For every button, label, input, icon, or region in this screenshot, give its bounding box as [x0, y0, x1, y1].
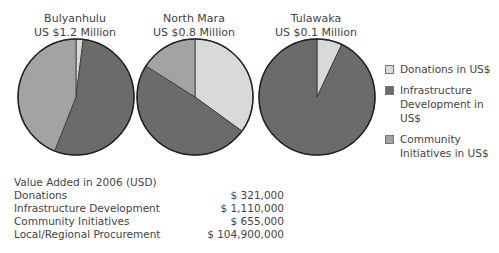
row-value: $ 321,000 — [231, 189, 284, 202]
table-row: Community Initiatives $ 655,000 — [14, 215, 284, 228]
row-label: Infrastructure Development — [14, 202, 160, 215]
row-value: $ 655,000 — [231, 215, 284, 228]
table-row: Local/Regional Procurement $ 104,900,000 — [14, 228, 284, 241]
legend-swatch — [385, 65, 394, 74]
table-row: Infrastructure Development $ 1,110,000 — [14, 202, 284, 215]
legend-item-community: Community Initiatives in US$ — [385, 132, 499, 160]
row-label: Community Initiatives — [14, 215, 129, 228]
row-value: $ 1,110,000 — [221, 202, 284, 215]
legend-swatch — [385, 86, 394, 95]
legend-label: Donations in US$ — [400, 63, 490, 75]
row-label: Local/Regional Procurement — [14, 228, 160, 241]
row-label: Donations — [14, 189, 67, 202]
pie-north-mara — [137, 39, 253, 155]
row-value: $ 104,900,000 — [207, 228, 284, 241]
pie-bulyanhulu — [18, 39, 134, 155]
legend-swatch — [385, 135, 394, 144]
legend-label: Infrastructure Development in US$ — [400, 84, 484, 124]
pie-tulawaka — [259, 39, 375, 155]
table-heading: Value Added in 2006 (USD) — [14, 176, 284, 189]
legend-item-donations: Donations in US$ — [385, 62, 499, 76]
table-row: Donations $ 321,000 — [14, 189, 284, 202]
legend-label: Community Initiatives in US$ — [400, 133, 489, 159]
chart-legend: Donations in US$ Infrastructure Developm… — [385, 62, 499, 167]
value-added-table: Value Added in 2006 (USD) Donations $ 32… — [14, 176, 284, 241]
legend-item-infrastructure: Infrastructure Development in US$ — [385, 83, 499, 125]
